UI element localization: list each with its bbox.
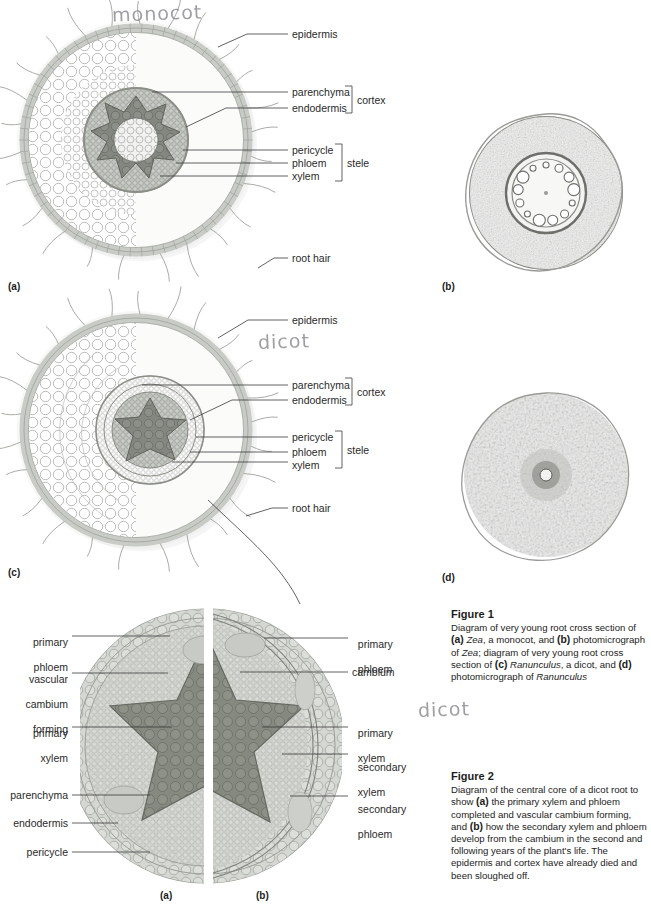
label-parenchyma-fig2: parenchyma <box>0 789 68 802</box>
photomicrograph-zea <box>466 110 636 280</box>
handwritten-note-monocot: monocot <box>112 0 203 25</box>
figure1-caption-body: Diagram of very young root cross section… <box>451 622 645 682</box>
label-epidermis-a: epidermis <box>292 28 338 41</box>
label-epidermis-c: epidermis <box>292 314 338 327</box>
figure-page: monocot dicot dicot epidermis parenchyma… <box>0 0 651 908</box>
label-root-hair-a: root hair <box>292 252 331 265</box>
label-cambium: cambium <box>352 666 395 679</box>
label-secondary-phloem: secondary phloem <box>352 790 406 840</box>
label-stele-a: stele <box>347 157 369 170</box>
bracket-stele-c <box>335 431 342 468</box>
panel-marker-c: (c) <box>8 567 20 578</box>
figure2-panel-marker-b: (b) <box>256 890 269 901</box>
dicot-root-diagram <box>0 286 278 571</box>
label-pericycle-fig2: pericycle <box>0 846 68 859</box>
label-endodermis-c: endodermis <box>292 394 347 407</box>
label-xylem-a: xylem <box>292 170 319 183</box>
label-endodermis-a: endodermis <box>292 102 347 115</box>
figure2-caption: Figure 2 Diagram of the central core of … <box>451 770 647 882</box>
panel-marker-b: (b) <box>442 281 455 292</box>
monocot-root-diagram <box>0 0 278 282</box>
label-cortex-c: cortex <box>357 386 386 399</box>
label-parenchyma-c: parenchyma <box>292 379 350 392</box>
panel-marker-a: (a) <box>8 281 20 292</box>
label-stele-c: stele <box>347 444 369 457</box>
figure1-caption: Figure 1 Diagram of very young root cros… <box>451 608 647 683</box>
label-parenchyma-a: parenchyma <box>292 86 350 99</box>
label-pericycle-a: pericycle <box>292 144 333 157</box>
handwritten-note-dicot-c: dicot <box>258 329 311 353</box>
handwritten-note-dicot-fig2: dicot <box>418 697 471 721</box>
label-xylem-c: xylem <box>292 459 319 472</box>
label-cortex-a: cortex <box>357 94 386 107</box>
figure1-caption-title: Figure 1 <box>451 608 647 620</box>
label-primary-xylem-left: primary xylem <box>0 714 68 764</box>
figure2-caption-title: Figure 2 <box>451 770 647 782</box>
label-root-hair-c: root hair <box>292 502 331 515</box>
panel-marker-d: (d) <box>442 572 455 583</box>
label-pericycle-c: pericycle <box>292 431 333 444</box>
label-phloem-c: phloem <box>292 446 326 459</box>
figure2-caption-body: Diagram of the central core of a dicot r… <box>451 784 647 880</box>
label-phloem-a: phloem <box>292 157 326 170</box>
photomicrograph-ranunculus <box>462 392 634 564</box>
label-endodermis-fig2: endodermis <box>0 817 68 830</box>
bracket-stele-a <box>335 144 342 181</box>
figure2-panel-marker-a: (a) <box>160 890 172 901</box>
